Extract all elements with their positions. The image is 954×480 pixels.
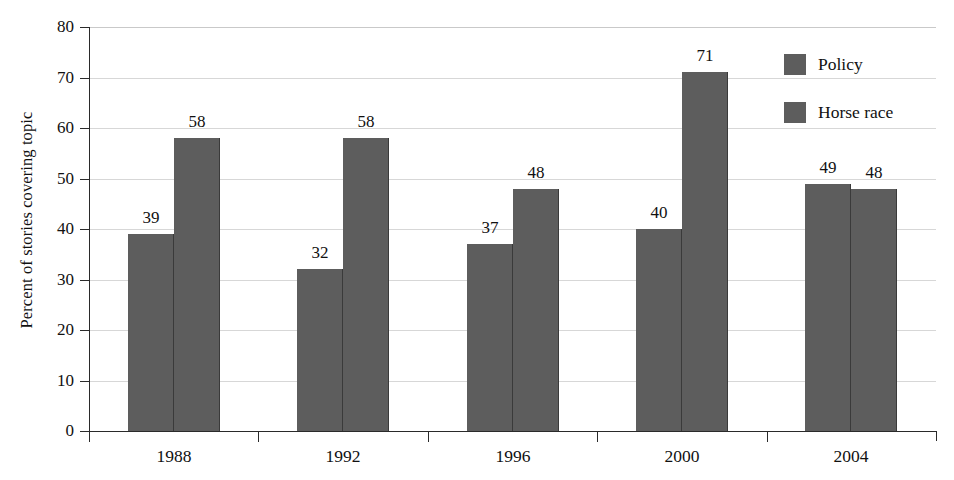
bar-chart: Percent of stories covering topic 010203…: [0, 0, 954, 480]
bar: [128, 234, 174, 431]
y-axis-tick-label: 50: [34, 170, 74, 187]
x-axis-label: 1996: [428, 446, 598, 466]
x-axis-tick: [767, 431, 768, 442]
bar-value-label: 37: [467, 219, 513, 236]
bar-value-label: 48: [851, 164, 897, 181]
bar: [174, 138, 220, 431]
bar-value-label: 71: [682, 47, 728, 64]
bar-value-label: 48: [513, 164, 559, 181]
y-axis-tick-label: 40: [34, 220, 74, 237]
y-axis-tick: [80, 128, 89, 129]
bar: [513, 189, 559, 431]
y-axis-tick: [80, 27, 89, 28]
legend-label: Horse race: [818, 102, 893, 122]
y-axis-tick-label: 60: [34, 119, 74, 136]
bar: [297, 269, 343, 431]
y-axis-tick: [80, 431, 89, 432]
y-axis-tick: [80, 280, 89, 281]
y-axis-tick-label: 10: [34, 372, 74, 389]
bar-value-label: 49: [805, 159, 851, 176]
legend-swatch-icon: [784, 54, 806, 75]
bar-value-label: 58: [343, 113, 389, 130]
x-axis-line: [89, 431, 937, 432]
x-axis-tick: [428, 431, 429, 442]
legend-label: Policy: [818, 54, 863, 74]
y-axis-tick-label: 30: [34, 271, 74, 288]
y-axis-tick: [80, 229, 89, 230]
y-axis-tick-label: 80: [34, 18, 74, 35]
y-axis-tick: [80, 330, 89, 331]
bar: [805, 184, 851, 431]
y-axis-tick-label: 20: [34, 321, 74, 338]
bar: [682, 72, 728, 431]
x-axis-label: 1992: [258, 446, 428, 466]
x-axis-tick: [258, 431, 259, 442]
x-axis-label: 1988: [89, 446, 259, 466]
bar-value-label: 58: [174, 113, 220, 130]
legend: PolicyHorse race: [784, 40, 949, 136]
y-axis-tick: [80, 78, 89, 79]
y-axis-tick-label: 70: [34, 69, 74, 86]
x-axis-label: 2000: [597, 446, 767, 466]
x-axis-label: 2004: [766, 446, 936, 466]
bar-value-label: 32: [297, 244, 343, 261]
y-axis-tick: [80, 381, 89, 382]
bar: [343, 138, 389, 431]
x-axis-end-tick: [936, 431, 937, 441]
x-axis-tick: [597, 431, 598, 442]
bar: [636, 229, 682, 431]
bar-value-label: 39: [128, 209, 174, 226]
y-axis-tick: [80, 179, 89, 180]
y-axis-tick-label: 0: [34, 422, 74, 439]
x-axis-origin-tick: [89, 431, 90, 442]
bar: [467, 244, 513, 431]
legend-swatch-icon: [784, 102, 806, 123]
legend-item[interactable]: Policy: [784, 40, 949, 88]
bar-value-label: 40: [636, 204, 682, 221]
legend-item[interactable]: Horse race: [784, 88, 949, 136]
bar: [851, 189, 897, 431]
